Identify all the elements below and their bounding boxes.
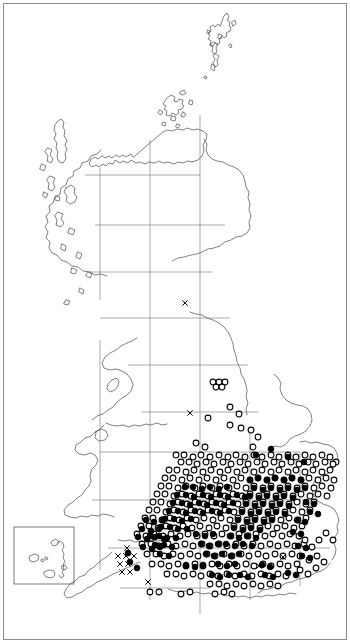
distribution-map-figure bbox=[0, 0, 350, 643]
channel-islands-outline bbox=[29, 539, 67, 578]
inset-border bbox=[14, 527, 74, 584]
channel-islands-inset bbox=[0, 0, 350, 643]
